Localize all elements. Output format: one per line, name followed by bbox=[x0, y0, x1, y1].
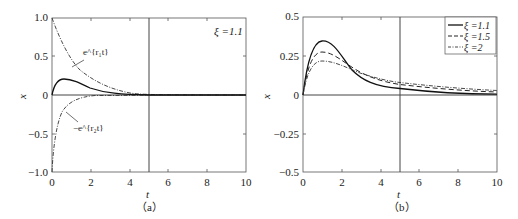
b-xtick: 0 bbox=[293, 177, 313, 188]
a-xlabel: t bbox=[146, 189, 149, 200]
a-ytick: −0.5 bbox=[8, 129, 48, 140]
b-ytick: −0.25 bbox=[259, 129, 299, 140]
legend-item: ξ =2 bbox=[464, 42, 483, 53]
a-ylabel: x bbox=[17, 94, 28, 99]
b-ylabel: x bbox=[261, 94, 272, 99]
b-xtick: 2 bbox=[332, 177, 352, 188]
a-xtick: 2 bbox=[81, 177, 101, 188]
charts-canvas bbox=[0, 0, 518, 219]
b-xtick: 6 bbox=[409, 177, 429, 188]
b-ytick: 0.5 bbox=[259, 11, 299, 22]
b-xtick: 10 bbox=[487, 177, 507, 188]
a-xtick: 8 bbox=[197, 177, 217, 188]
legend-item: ξ =1.5 bbox=[464, 31, 490, 42]
a-curve-label-bottom: −e^{r₂t} bbox=[73, 123, 104, 134]
a-xtick: 6 bbox=[158, 177, 178, 188]
a-ytick: 0.5 bbox=[8, 51, 48, 62]
b-xtick: 8 bbox=[448, 177, 468, 188]
b-xlabel: t bbox=[397, 189, 400, 200]
a-curve-label-top: e^{r₁t} bbox=[83, 47, 109, 58]
a-xtick: 10 bbox=[236, 177, 256, 188]
a-xtick: 0 bbox=[42, 177, 62, 188]
a-ytick: 0 bbox=[8, 90, 48, 101]
a-ytick: 1.0 bbox=[8, 12, 48, 23]
legend-item: ξ =1.1 bbox=[464, 20, 490, 31]
a-xtick: 4 bbox=[120, 177, 140, 188]
b-panel-label: （b） bbox=[388, 202, 416, 213]
b-xtick: 4 bbox=[371, 177, 391, 188]
a-panel-label: （a） bbox=[136, 202, 163, 213]
b-ytick: 0.25 bbox=[259, 51, 299, 62]
a-annotation: ξ =1.1 bbox=[214, 26, 243, 37]
